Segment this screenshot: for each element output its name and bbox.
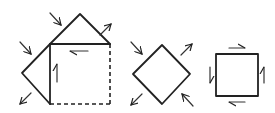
- compression-arrow-top-icon: [50, 13, 61, 25]
- stress-diagram: [0, 0, 275, 113]
- tension-arrow-sw-icon: [131, 94, 142, 105]
- left-triangle: [22, 44, 50, 104]
- tension-arrow-bottom-left-icon: [20, 93, 31, 104]
- compression-arrow-left-icon: [20, 42, 31, 54]
- tension-arrow-top-right-icon: [100, 24, 111, 35]
- composite-element: [20, 13, 111, 104]
- shear-square: [210, 48, 264, 102]
- principal-diamond: [131, 42, 193, 106]
- compression-arrow-se-icon: [182, 94, 193, 106]
- square-shape: [216, 54, 258, 96]
- top-triangle: [50, 14, 110, 44]
- compression-arrow-nw-icon: [131, 42, 142, 54]
- tension-arrow-ne-icon: [181, 44, 192, 55]
